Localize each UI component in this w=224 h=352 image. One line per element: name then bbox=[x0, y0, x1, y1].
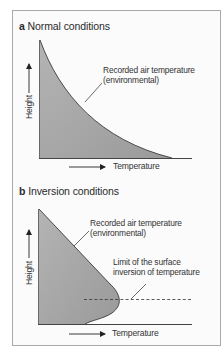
panel-a-curve-annotation-line-1: Recorded air temperature bbox=[103, 65, 195, 75]
panel-b-y-axis-label: Height bbox=[24, 258, 34, 288]
panel-b-curve-annotation-line-1: Recorded air temperature bbox=[90, 218, 182, 228]
panel-b-curve-annotation-line-2: (environmental) bbox=[90, 228, 182, 238]
panel-b-inversion-annotation-line-1: Limit of the surface bbox=[113, 257, 200, 267]
panel-a-title-text: Normal conditions bbox=[28, 20, 110, 32]
panel-a-graphics bbox=[29, 40, 192, 167]
panel-b-inversion-leader bbox=[131, 284, 146, 299]
panel-a-letter: a bbox=[19, 20, 25, 32]
panel-a-curve-annotation-line-2: (environmental) bbox=[103, 75, 195, 85]
panel-b-title-text: Inversion conditions bbox=[28, 185, 119, 197]
panel-a-title: a Normal conditions bbox=[19, 20, 110, 32]
panel-a-x-axis-label: Temperature bbox=[113, 161, 160, 171]
panel-b-x-axis-label: Temperature bbox=[112, 328, 159, 338]
panel-a-temperature-area bbox=[40, 40, 172, 158]
panel-a-annotation-leader bbox=[85, 83, 102, 102]
panel-b-inversion-annotation-line-2: inversion of temperature bbox=[113, 267, 200, 277]
panel-b-inversion-annotation: Limit of the surface inversion of temper… bbox=[113, 257, 200, 277]
panel-b-letter: b bbox=[19, 185, 25, 197]
panel-b-curve-annotation: Recorded air temperature (environmental) bbox=[90, 218, 182, 238]
panel-b-annotation-leader bbox=[74, 231, 89, 246]
panel-a-y-axis-label: Height bbox=[24, 92, 34, 122]
panel-b-title: b Inversion conditions bbox=[19, 185, 119, 197]
panel-a-curve-annotation: Recorded air temperature (environmental) bbox=[103, 65, 195, 85]
diagram-graphics bbox=[0, 0, 224, 352]
